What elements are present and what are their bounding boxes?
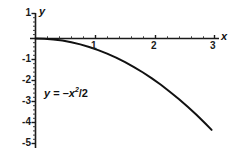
y-tick-label-neg1: -1 [11,54,31,64]
y-tick-label-neg5: -5 [11,138,31,148]
graph-figure: 1 -1 -2 -3 -4 -5 1 2 3 y x y = –x2/2 [0,0,238,157]
x-axis-label: x [221,31,227,42]
x-tick-label-2: 2 [151,41,157,51]
y-tick-label-neg4: -4 [11,117,31,127]
x-tick-label-1: 1 [91,41,97,51]
y-axis-label: y [39,6,45,17]
x-tick-label-3: 3 [210,41,216,51]
equation-operator: = – [50,87,69,99]
plot-canvas [0,0,238,157]
y-tick-label-neg2: -2 [11,75,31,85]
equation-denominator: /2 [79,87,88,99]
parabola-curve [36,39,212,130]
y-tick-label-1: 1 [11,8,31,18]
y-tick-label-neg3: -3 [11,96,31,106]
equation-annotation: y = –x2/2 [44,88,88,99]
